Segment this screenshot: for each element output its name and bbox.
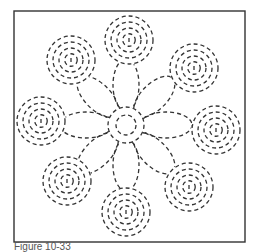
spiral-bottom-right: [164, 162, 214, 212]
spiral-top-right: [169, 43, 219, 93]
spiral-top: [104, 15, 154, 65]
spiral-bottom-left: [42, 156, 92, 206]
center-outer-circle: [108, 107, 144, 143]
spiral-right: [191, 105, 241, 155]
flower-center: [108, 107, 144, 143]
figure-caption: Figure 10-33: [14, 242, 71, 252]
spiral-bottom: [101, 187, 151, 237]
spiral-top-left: [46, 35, 96, 85]
flower-spiral-diagram: [0, 0, 257, 252]
spiral-left: [16, 96, 66, 146]
